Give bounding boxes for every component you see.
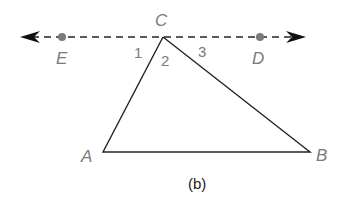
angle-1-label: 1 <box>134 44 142 61</box>
geometry-diagram: C E D A B 1 2 3 (b) <box>0 0 342 203</box>
label-b: B <box>316 146 327 165</box>
label-c: C <box>155 11 168 30</box>
point-e-dot <box>58 33 66 41</box>
label-a: A <box>80 147 92 166</box>
label-e: E <box>56 49 68 68</box>
figure-caption: (b) <box>188 175 206 192</box>
point-d-dot <box>256 33 264 41</box>
angle-3-label: 3 <box>198 43 206 60</box>
label-d: D <box>252 49 264 68</box>
angle-2-label: 2 <box>161 52 169 69</box>
